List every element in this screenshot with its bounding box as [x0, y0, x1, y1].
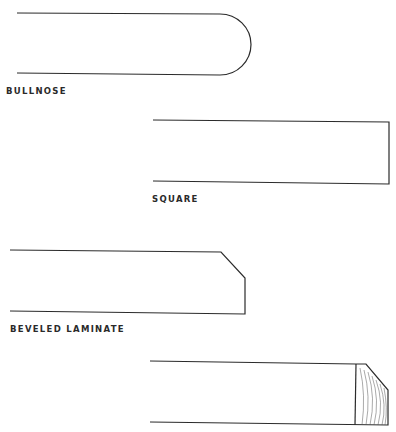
- wood-grain-icon: [360, 368, 386, 425]
- beveled-wood-edge-profile: [150, 361, 388, 425]
- beveled-laminate-profile: [10, 250, 245, 314]
- bullnose-profile: [17, 13, 251, 75]
- square-label: SQUARE: [152, 194, 199, 204]
- edge-profiles-diagram: [0, 0, 396, 432]
- wood-edge-joint-line: [355, 364, 356, 425]
- beveled-laminate-label: BEVELED LAMINATE: [10, 324, 125, 334]
- square-profile: [153, 120, 389, 184]
- bullnose-label: BULLNOSE: [6, 86, 67, 96]
